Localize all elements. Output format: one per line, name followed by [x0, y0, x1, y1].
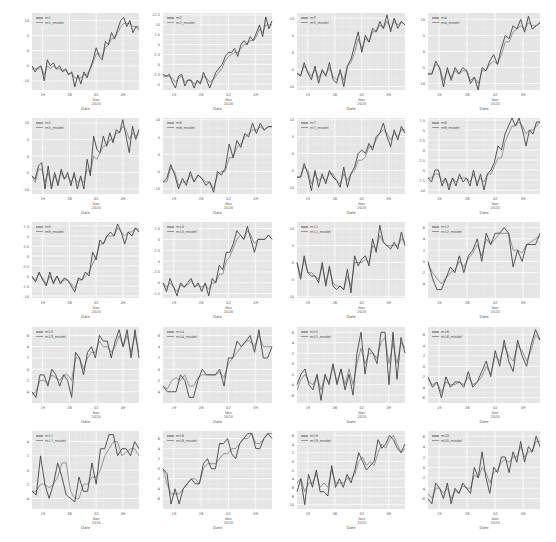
- y-tick-label: -10: [288, 85, 295, 89]
- y-tick-label: 10: [155, 118, 160, 122]
- x-tick-label: 02: [226, 301, 231, 305]
- y-tick-label: 4: [423, 344, 426, 348]
- legend: m16m16_model: [430, 329, 464, 340]
- x-tick-label: 02: [94, 512, 99, 516]
- legend: m20m20_model: [430, 433, 464, 444]
- x-tick-label: 26: [465, 512, 470, 516]
- y-tick-label: 10: [420, 18, 425, 22]
- y-tick-label: 5: [292, 135, 294, 139]
- y-tick-label: 0: [292, 362, 295, 366]
- x-tick-label: 02: [226, 512, 231, 516]
- y-tick-label: 0: [423, 149, 426, 153]
- legend: m15m15_model: [299, 329, 333, 340]
- x-tick-label: 09: [521, 301, 526, 305]
- x-tick-label: 19: [40, 197, 45, 201]
- y-tick-label: -2.5: [22, 265, 29, 269]
- legend-label: m6_model: [176, 126, 195, 130]
- x-tick-label: 26: [465, 93, 470, 97]
- legend: m4m4_model: [430, 15, 464, 26]
- y-tick-label: -2: [156, 477, 160, 481]
- y-tick-label: -6: [421, 396, 425, 400]
- legend-label: m15_model: [310, 335, 331, 339]
- subplot-m2: -5-2.502.557.51012.519260209Nov2020Datem…: [152, 13, 272, 111]
- y-tick-label: 4: [27, 440, 30, 444]
- y-tick-label: 2.5: [154, 53, 160, 57]
- x-tick-label: 09: [387, 197, 392, 201]
- x-tick-label: 09: [521, 93, 526, 97]
- y-tick-label: 0: [158, 368, 161, 372]
- x-tick-label: 26: [67, 512, 72, 516]
- x-tick-label: 09: [387, 301, 392, 305]
- x-tick-label: 02: [360, 512, 365, 516]
- x-tick-label: 26: [199, 93, 204, 97]
- legend: m19m19_model: [299, 433, 333, 444]
- legend-label: m20_model: [441, 439, 462, 443]
- legend-label: m5: [45, 121, 51, 125]
- legend-label: m19_model: [310, 439, 331, 443]
- y-tick-label: 6: [423, 435, 426, 439]
- y-tick-label: -5: [25, 64, 29, 68]
- x-tick-label: 26: [333, 512, 338, 516]
- x-tick-label: 19: [437, 406, 442, 410]
- subplot-m13: -4-2024619260209Nov2020Datem13m13_model: [25, 327, 139, 424]
- legend: m6m6_model: [165, 120, 199, 131]
- x-tick-label: 02: [493, 93, 498, 97]
- y-tick-label: -2: [156, 379, 160, 383]
- x-axis-label: Date: [213, 525, 223, 530]
- y-tick-label: 6: [423, 333, 426, 337]
- y-tick-label: -10: [288, 295, 295, 299]
- legend: m11m11_model: [299, 224, 333, 235]
- x-tick-label: 19: [172, 93, 177, 97]
- legend-label: m1_model: [45, 21, 64, 25]
- y-tick-label: -10: [23, 295, 30, 299]
- y-tick-label: 0: [292, 152, 295, 156]
- legend: m2m2_model: [165, 15, 199, 26]
- legend: m7m7_model: [299, 120, 333, 131]
- y-tick-label: -2.5: [418, 159, 425, 163]
- legend: m5m5_model: [34, 120, 68, 131]
- legend-label: m3_model: [310, 21, 329, 25]
- legend-label: m17_model: [45, 439, 66, 443]
- x-axis-label: Date: [81, 210, 91, 215]
- x-tick-label: 09: [387, 512, 392, 516]
- y-tick-label: 0: [158, 260, 161, 264]
- legend-label: m7_model: [310, 126, 329, 130]
- y-tick-label: -10: [419, 189, 426, 193]
- legend-label: m2_model: [176, 21, 195, 25]
- legend-label: m4: [441, 16, 448, 20]
- y-tick-label: 2: [158, 356, 160, 360]
- x-axis-label: Date: [346, 314, 356, 319]
- subplot-m9: -10-7.5-5-2.502.557.519260209Nov2020Date…: [22, 222, 139, 319]
- y-tick-label: 5: [423, 129, 425, 133]
- x-tick-label: 26: [333, 93, 338, 97]
- y-tick-label: -2.5: [153, 73, 160, 77]
- y-tick-label: 7.5: [154, 33, 160, 37]
- x-tick-label: 26: [67, 406, 72, 410]
- y-tick-label: 0: [158, 153, 161, 157]
- x-tick-label: 09: [521, 197, 526, 201]
- subplot-m10: -7.5-5-2.502.557.519260209Nov2020Datem10…: [153, 222, 272, 319]
- legend-label: m2: [176, 16, 182, 20]
- y-tick-label: -2: [25, 483, 29, 487]
- x-tick-label: 09: [253, 512, 258, 516]
- y-tick-label: -6: [421, 497, 425, 501]
- y-tick-label: -7.5: [22, 285, 29, 289]
- subplot-m5: -10-5051019260209Nov2020Datem5m5_model: [23, 118, 139, 215]
- x-tick-label: 02: [360, 406, 365, 410]
- y-tick-label: -5: [156, 170, 160, 174]
- x-year-label: 2020: [357, 415, 367, 419]
- y-tick-label: -4: [156, 390, 160, 394]
- subplot-m20: -6-4-2024619260209Nov2020Datem20m20_mode…: [421, 431, 540, 530]
- y-tick-label: -5: [290, 169, 294, 173]
- x-tick-label: 19: [306, 301, 311, 305]
- x-tick-label: 09: [253, 301, 258, 305]
- legend-label: m11: [310, 225, 318, 229]
- y-tick-label: -2: [25, 379, 29, 383]
- x-axis-label: Date: [213, 106, 223, 111]
- y-tick-label: 4: [292, 443, 295, 447]
- y-tick-label: -10: [154, 187, 161, 191]
- y-tick-label: 6: [27, 334, 30, 338]
- subplot-m14: -4-2024619260209Nov2020Datem14m14_model: [156, 327, 272, 424]
- legend: m17m17_model: [34, 433, 68, 444]
- x-tick-label: 26: [333, 197, 338, 201]
